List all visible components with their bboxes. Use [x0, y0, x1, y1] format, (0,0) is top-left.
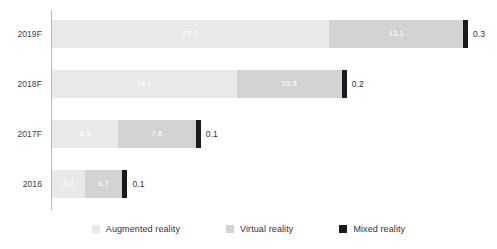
legend-item[interactable]: Virtual reality	[226, 224, 293, 234]
bar-segment[interactable]: 7.6	[118, 120, 196, 148]
bar-segment[interactable]	[196, 120, 201, 148]
bar-row: 2018F18.110.30.2	[0, 70, 497, 98]
stacked-bar[interactable]: 6.57.6	[52, 120, 201, 148]
bar-segment[interactable]: 27.2	[52, 20, 329, 48]
bar-row: 2019F27.213.10.3	[0, 20, 497, 48]
axis-tick-label: 2016	[23, 179, 42, 189]
bar-segment-label: 6.5	[80, 130, 91, 138]
legend-label: Mixed reality	[353, 224, 405, 234]
axis-tick-label: 2017F	[17, 129, 42, 139]
bar-value-label: 0.3	[473, 29, 485, 39]
legend-swatch-icon	[226, 225, 234, 233]
legend-label: Augmented reality	[106, 224, 180, 234]
bar-value-label: 0.2	[352, 79, 364, 89]
bar-row: 2017F6.57.60.1	[0, 120, 497, 148]
chart-legend: Augmented realityVirtual realityMixed re…	[0, 218, 497, 240]
stacked-bar[interactable]: 3.23.7	[52, 170, 127, 198]
stacked-bar[interactable]: 27.213.1	[52, 20, 468, 48]
bar-segment-label: 7.6	[152, 130, 163, 138]
axis-tick-label: 2018F	[17, 79, 42, 89]
bar-segment[interactable]	[463, 20, 468, 48]
bar-segment[interactable]: 10.3	[237, 70, 342, 98]
bar-segment-label: 10.3	[282, 80, 297, 88]
bar-segment-label: 27.2	[183, 30, 198, 38]
bar-segment[interactable]: 18.1	[52, 70, 237, 98]
bar-segment[interactable]: 3.7	[85, 170, 123, 198]
bar-segment[interactable]	[122, 170, 127, 198]
bar-segment[interactable]	[342, 70, 347, 98]
stacked-bar[interactable]: 18.110.3	[52, 70, 347, 98]
bar-segment-label: 18.1	[137, 80, 152, 88]
bar-value-label: 0.1	[132, 179, 144, 189]
bar-value-label: 0.1	[206, 129, 218, 139]
bar-segment-label: 3.2	[63, 180, 74, 188]
bar-row: 20163.23.70.1	[0, 170, 497, 198]
legend-item[interactable]: Mixed reality	[339, 224, 405, 234]
axis-tick-label: 2019F	[17, 29, 42, 39]
bar-segment[interactable]: 3.2	[52, 170, 85, 198]
legend-item[interactable]: Augmented reality	[92, 224, 180, 234]
plot-area: 2019F27.213.10.32018F18.110.30.22017F6.5…	[0, 0, 497, 212]
bar-segment[interactable]: 13.1	[329, 20, 463, 48]
legend-swatch-icon	[339, 225, 347, 233]
legend-label: Virtual reality	[240, 224, 293, 234]
stacked-bar-chart: 2019F27.213.10.32018F18.110.30.22017F6.5…	[0, 0, 497, 249]
bar-segment[interactable]: 6.5	[52, 120, 118, 148]
bar-segment-label: 3.7	[98, 180, 109, 188]
legend-swatch-icon	[92, 225, 100, 233]
bar-segment-label: 13.1	[389, 30, 404, 38]
